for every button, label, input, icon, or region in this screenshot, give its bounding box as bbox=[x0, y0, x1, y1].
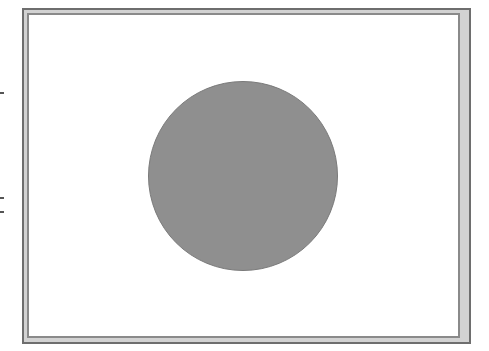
left-edge-mark-top bbox=[0, 92, 4, 94]
left-edge-mark-bottom bbox=[0, 211, 4, 213]
left-edge-mark-middle bbox=[0, 197, 4, 199]
gray-circle-shape bbox=[148, 81, 338, 271]
